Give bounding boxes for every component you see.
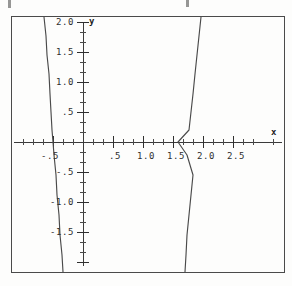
y-axis-label: y [89, 17, 94, 26]
y-tick-label: .5 [48, 108, 74, 117]
x-tick-label: 1.0 [137, 152, 155, 161]
y-tick-label: 1.0 [48, 78, 74, 87]
page-canvas: x y -.5 .5 1.0 1.5 2.0 2.5 2.0 1.5 1.0 .… [0, 0, 292, 286]
y-tick-label: 1.5 [48, 48, 74, 57]
y-tick-label: 2.0 [48, 18, 74, 27]
x-tick-label: .5 [109, 152, 121, 161]
x-tick-label: 1.5 [167, 152, 185, 161]
x-tick-label: -.5 [41, 152, 59, 161]
y-tick-label: -1.0 [42, 198, 74, 207]
y-tick-label: -1.5 [42, 228, 74, 237]
x-tick-label: 2.5 [227, 152, 245, 161]
scan-artifact-left [8, 0, 11, 8]
x-axis-label: x [271, 128, 276, 137]
x-tick-label: 2.0 [197, 152, 215, 161]
y-tick-label: -.5 [44, 168, 74, 177]
scan-artifact-right [186, 0, 189, 7]
